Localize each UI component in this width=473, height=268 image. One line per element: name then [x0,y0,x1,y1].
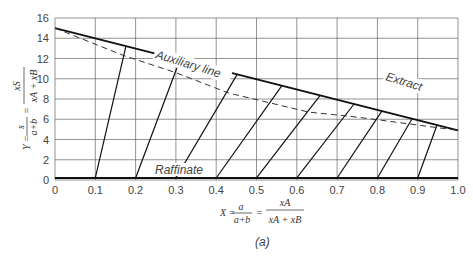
extract-label: Extract [382,69,430,96]
auxiliary-label: Auxiliary line [152,47,233,84]
x-tick-label: 0.6 [289,184,304,196]
svg-text:Raffinate: Raffinate [155,163,203,177]
x-tick-label: 1.0 [450,184,465,196]
svg-text:Y =: Y = [21,135,32,150]
svg-text:Auxiliary line: Auxiliary line [153,47,223,80]
svg-text:a+b: a+b [234,214,251,225]
raffinate-label: Raffinate [153,163,209,177]
svg-text:=: = [256,207,263,218]
tie-line [337,111,382,178]
svg-text:xS: xS [11,81,22,91]
y-axis-label: Y = s a+b = xS xA + xB [11,67,39,150]
x-tick-label: 0.4 [209,184,224,196]
x-tick-label: 0.8 [370,184,385,196]
svg-text:a+b: a+b [28,119,39,136]
y-tick-label: 12 [37,53,49,65]
svg-text:xA + xB: xA + xB [268,214,302,225]
tie-line [418,125,437,178]
svg-text:a: a [239,201,244,212]
svg-text:xA + xB: xA + xB [28,70,39,104]
y-tick-label: 8 [43,93,49,105]
x-tick-label: 0.3 [168,184,183,196]
figure-caption: (a) [255,235,270,249]
svg-text:Extract: Extract [384,69,424,94]
x-tick-label: 0.7 [329,184,344,196]
svg-text:=: = [21,107,32,114]
y-tick-label: 2 [43,154,49,166]
janecke-diagram: 00.10.20.30.40.50.60.70.80.91.0024681012… [0,0,473,268]
y-tick-label: 14 [37,32,49,44]
x-tick-label: 0.1 [88,184,103,196]
x-tick-label: 0.9 [410,184,425,196]
tie-line [216,86,282,178]
grid [55,18,458,180]
x-axis-label: X = a a+b = xA xA + xB [219,197,304,225]
tie-line [377,119,412,178]
y-tick-label: 4 [43,134,49,146]
x-tick-label: 0.5 [249,184,264,196]
x-tick-label: 0 [52,184,58,196]
y-tick-label: 0 [43,174,49,186]
svg-text:xA: xA [279,197,291,208]
y-tick-label: 16 [37,12,49,24]
x-tick-label: 0.2 [128,184,143,196]
svg-text:s: s [15,125,26,129]
y-tick-label: 6 [43,113,49,125]
tie-line [95,46,126,178]
